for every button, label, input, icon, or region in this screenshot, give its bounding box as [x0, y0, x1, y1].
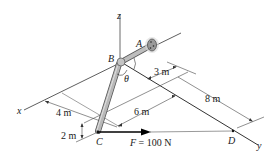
- label-force: F = 100 N: [130, 138, 171, 148]
- point-c: [97, 131, 100, 134]
- label-dim-6m: 6 m: [134, 107, 149, 117]
- pipe-force-diagram: z A B θ 3 m 8 m 6 m 4 m 2 m x C D y F = …: [0, 0, 280, 162]
- label-dim-2m: 2 m: [61, 131, 76, 141]
- dim-arrow-icon: [81, 135, 84, 139]
- angle-arc-a: [134, 58, 136, 69]
- label-dim-8m: 8 m: [205, 94, 220, 104]
- label-y-axis: y: [257, 141, 261, 151]
- cd-line: [150, 131, 233, 132]
- dim-arrow-icon: [45, 101, 49, 104]
- label-dim-4m: 4 m: [56, 108, 71, 118]
- point-d: [232, 130, 234, 132]
- force-symbol: F: [130, 137, 136, 148]
- flange-a: [148, 39, 157, 51]
- force-arrow-icon: [141, 129, 151, 136]
- label-point-d: D: [228, 136, 235, 146]
- bolt-icon: [150, 41, 152, 43]
- dim-3m-ext: [167, 62, 196, 74]
- dim-arrow-icon: [173, 66, 177, 69]
- dim-arrow-icon: [172, 95, 176, 98]
- label-point-a: A: [136, 39, 142, 49]
- label-z-axis: z: [117, 11, 121, 21]
- label-point-c: C: [96, 137, 103, 147]
- force-value: 100 N: [147, 137, 172, 148]
- dim-arrow-icon: [81, 123, 84, 127]
- label-theta: θ: [124, 74, 129, 84]
- label-x-axis: x: [17, 106, 21, 116]
- label-point-b: B: [108, 54, 114, 64]
- bolt-icon: [153, 45, 155, 47]
- label-dim-3m: 3 m: [154, 67, 169, 77]
- dim-2m-ext: [76, 132, 98, 142]
- dim-arrow-icon: [249, 118, 253, 122]
- elbow-b: [117, 58, 125, 66]
- pipe-highlight: [97, 66, 118, 130]
- pipe-bc: [98, 64, 119, 131]
- bolt-icon: [150, 47, 152, 49]
- dim-arrow-icon: [118, 123, 122, 127]
